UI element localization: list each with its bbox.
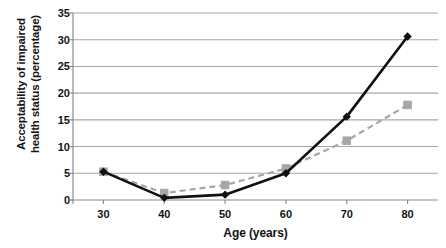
x-tick-label-60: 60 — [266, 208, 306, 220]
x-tick-label-30: 30 — [83, 208, 123, 220]
x-tick-label-50: 50 — [205, 208, 245, 220]
x-tick-label-40: 40 — [144, 208, 184, 220]
chart-figure: Acceptability of impaired health status … — [0, 0, 446, 248]
x-axis-label: Age (years) — [73, 226, 438, 240]
x-tick-label-70: 70 — [327, 208, 367, 220]
x-tick-label-80: 80 — [388, 208, 428, 220]
x-axis-tick-labels: 304050607080 — [0, 0, 446, 248]
